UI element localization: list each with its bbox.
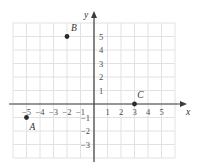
x-tick-label: −3 — [49, 107, 58, 117]
x-tick-label: −2 — [62, 107, 71, 117]
coordinate-plane-figure: −5−4−3−2−112345−3−2−112345 ABC yx — [0, 0, 202, 163]
point-marker-c — [132, 102, 137, 107]
y-tick-label: 1 — [99, 86, 103, 96]
point-marker-b — [65, 34, 70, 39]
y-axis-label: y — [83, 10, 89, 20]
axes — [9, 11, 187, 162]
x-tick-label: 4 — [146, 107, 151, 117]
point-label-a: A — [29, 122, 36, 132]
coordinate-plane-svg: −5−4−3−2−112345−3−2−112345 ABC yx — [0, 0, 202, 163]
y-axis-arrowhead — [91, 11, 97, 18]
x-axis-label: x — [185, 107, 191, 117]
y-tick-label: −1 — [81, 113, 90, 123]
x-tick-label: 5 — [159, 107, 163, 117]
y-tick-label: 2 — [99, 72, 103, 82]
point-marker-a — [24, 115, 29, 120]
x-tick-label: 3 — [132, 107, 136, 117]
x-tick-label: −4 — [35, 107, 45, 117]
point-label-c: C — [137, 90, 144, 100]
y-tick-label: −2 — [81, 126, 90, 136]
y-tick-label: 3 — [99, 59, 103, 69]
y-tick-label: −3 — [81, 140, 90, 150]
x-tick-label: 1 — [105, 107, 109, 117]
point-label-b: B — [71, 23, 77, 33]
x-tick-label: 2 — [119, 107, 123, 117]
y-tick-label: 5 — [99, 32, 103, 42]
